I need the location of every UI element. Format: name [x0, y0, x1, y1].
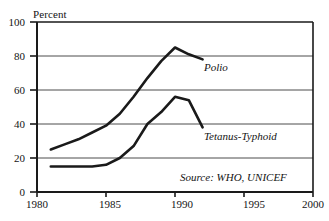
- gridlines: [37, 56, 313, 158]
- y-axis-ticks: [30, 22, 37, 192]
